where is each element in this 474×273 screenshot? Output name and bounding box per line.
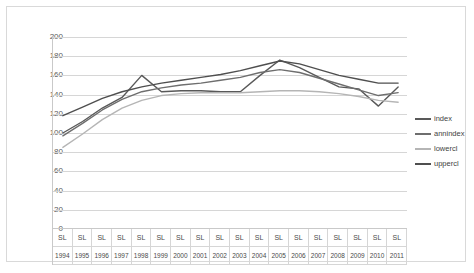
- legend-label: lowercl: [434, 145, 457, 153]
- series-line-lowercl: [63, 91, 398, 148]
- x-axis-year-cell: 1995: [73, 247, 93, 265]
- x-axis-prefix-cell: SL: [289, 229, 309, 247]
- x-axis-year-cell: 2005: [269, 247, 289, 265]
- legend-label: uppercl: [434, 160, 459, 168]
- x-axis-year-cell: 1994: [53, 247, 73, 265]
- x-axis-prefix-cell: SL: [191, 229, 211, 247]
- x-axis-row-prefix: SLSLSLSLSLSLSLSLSLSLSLSLSLSLSLSLSLSL: [53, 229, 407, 247]
- legend-swatch-icon: [415, 133, 431, 135]
- legend-label: annindex: [434, 130, 464, 138]
- x-axis-year-cell: 2002: [210, 247, 230, 265]
- x-axis-year-cell: 2003: [230, 247, 250, 265]
- x-axis-year-cell: 2011: [387, 247, 407, 265]
- legend-item-annindex[interactable]: annindex: [415, 126, 474, 141]
- chart-container: 020406080100120140160180200 SLSLSLSLSLSL…: [6, 6, 466, 262]
- x-axis-prefix-cell: SL: [230, 229, 250, 247]
- x-axis-prefix-cell: SL: [348, 229, 368, 247]
- x-axis-prefix-cell: SL: [269, 229, 289, 247]
- legend-item-index[interactable]: index: [415, 111, 474, 126]
- x-axis-prefix-cell: SL: [368, 229, 388, 247]
- x-axis-prefix-cell: SL: [171, 229, 191, 247]
- x-axis-row-year: 1994199519961997199819992000200120022003…: [53, 247, 407, 265]
- legend-swatch-icon: [415, 148, 431, 150]
- x-axis-prefix-cell: SL: [73, 229, 93, 247]
- x-axis-prefix-cell: SL: [92, 229, 112, 247]
- x-axis-year-cell: 2007: [309, 247, 329, 265]
- x-axis: SLSLSLSLSLSLSLSLSLSLSLSLSLSLSLSLSLSL 199…: [52, 229, 407, 265]
- x-axis-year-cell: 2004: [250, 247, 270, 265]
- x-axis-prefix-cell: SL: [387, 229, 407, 247]
- x-axis-prefix-cell: SL: [132, 229, 152, 247]
- chart-legend: indexannindexlowercluppercl: [415, 111, 474, 171]
- x-axis-prefix-cell: SL: [112, 229, 132, 247]
- plot-area: [52, 37, 407, 229]
- x-axis-prefix-cell: SL: [328, 229, 348, 247]
- legend-label: index: [434, 115, 452, 123]
- x-axis-prefix-cell: SL: [250, 229, 270, 247]
- series-lines: [53, 37, 408, 229]
- plot-area-wrapper: [52, 37, 407, 229]
- x-axis-year-cell: 1996: [92, 247, 112, 265]
- legend-swatch-icon: [415, 118, 431, 120]
- x-axis-year-cell: 2006: [289, 247, 309, 265]
- x-axis-year-cell: 2009: [348, 247, 368, 265]
- legend-item-uppercl[interactable]: uppercl: [415, 156, 474, 171]
- x-axis-prefix-cell: SL: [151, 229, 171, 247]
- x-axis-prefix-cell: SL: [53, 229, 73, 247]
- x-axis-year-cell: 2000: [171, 247, 191, 265]
- x-axis-prefix-cell: SL: [309, 229, 329, 247]
- x-axis-year-cell: 1998: [132, 247, 152, 265]
- x-axis-prefix-cell: SL: [210, 229, 230, 247]
- x-axis-year-cell: 1999: [151, 247, 171, 265]
- x-axis-year-cell: 2008: [328, 247, 348, 265]
- x-axis-year-cell: 2010: [368, 247, 388, 265]
- legend-item-lowercl[interactable]: lowercl: [415, 141, 474, 156]
- legend-swatch-icon: [415, 163, 431, 165]
- x-axis-year-cell: 2001: [191, 247, 211, 265]
- x-axis-year-cell: 1997: [112, 247, 132, 265]
- series-line-index: [63, 60, 398, 133]
